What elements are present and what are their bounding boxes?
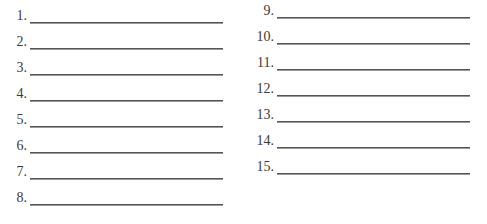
answer-blank-line[interactable] (277, 121, 470, 123)
answer-blank-line[interactable] (277, 147, 470, 149)
blank-number-label: 4. (17, 86, 28, 102)
answer-blank-line[interactable] (30, 178, 223, 180)
blank-number-label: 7. (17, 164, 28, 180)
blank-number-label: 10. (257, 29, 275, 45)
blank-number-label: 12. (257, 81, 275, 97)
answer-blank-line[interactable] (30, 126, 223, 128)
blank-number-label: 9. (264, 3, 275, 19)
blank-number-label: 13. (257, 107, 275, 123)
answer-blank-line[interactable] (30, 100, 223, 102)
answer-blank-line[interactable] (30, 22, 223, 24)
blank-number-label: 8. (17, 190, 28, 206)
answer-blank-line[interactable] (277, 69, 470, 71)
answer-blank-line[interactable] (277, 17, 470, 19)
answer-blank-line[interactable] (30, 48, 223, 50)
answer-blank-line[interactable] (277, 173, 470, 175)
answer-blank-line[interactable] (30, 152, 223, 154)
blank-number-label: 14. (257, 133, 275, 149)
blank-number-label: 2. (17, 34, 28, 50)
blank-number-label: 3. (17, 60, 28, 76)
blank-number-label: 15. (257, 159, 275, 175)
answer-blank-line[interactable] (30, 204, 223, 206)
answer-blank-line[interactable] (30, 74, 223, 76)
blank-number-label: 1. (17, 8, 28, 24)
answer-blank-line[interactable] (277, 95, 470, 97)
blank-number-label: 6. (17, 138, 28, 154)
blank-number-label: 5. (17, 112, 28, 128)
blank-number-label: 11. (257, 55, 274, 71)
answer-blank-line[interactable] (277, 43, 470, 45)
